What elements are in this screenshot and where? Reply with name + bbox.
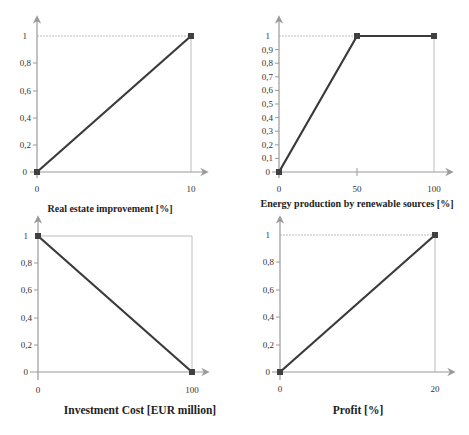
x-tick-label: 100 xyxy=(185,385,199,395)
x-axis-label: Investment Cost [EUR million] xyxy=(64,404,216,416)
y-tick-label: 0,2 xyxy=(262,140,273,150)
x-axis-label: Real estate improvement [%] xyxy=(47,203,172,214)
y-tick-label: 1 xyxy=(266,31,271,41)
data-point xyxy=(35,233,41,239)
y-tick-label: 0,2 xyxy=(263,340,274,350)
y-tick-label: 0,2 xyxy=(20,140,31,150)
y-tick-label: 0,6 xyxy=(20,86,32,96)
chart-investment-cost: 0 0,2 0,4 0,6 0,8 1 0 100 Investment Cos… xyxy=(21,217,216,416)
y-tick-label: 0,8 xyxy=(21,258,33,268)
data-point xyxy=(432,232,438,238)
y-tick-label: 0,4 xyxy=(262,113,274,123)
data-point xyxy=(431,33,437,39)
y-tick-label: 0,8 xyxy=(263,257,275,267)
x-tick-label: 50 xyxy=(353,184,363,194)
y-tick-label: 0 xyxy=(266,167,271,177)
y-tick-label: 0 xyxy=(266,367,271,377)
y-tick-label: 0,6 xyxy=(262,85,274,95)
y-ticks: 0 0,2 0,4 0,6 0,8 1 xyxy=(20,31,37,177)
x-tick-label: 10 xyxy=(187,184,197,194)
y-tick-label: 0,4 xyxy=(263,312,275,322)
chart-profit: 0 0,2 0,4 0,6 0,8 1 0 20 Profit [%] xyxy=(263,217,454,416)
y-tick-label: 0,9 xyxy=(262,45,274,55)
data-point xyxy=(188,33,194,39)
y-tick-label: 1 xyxy=(24,231,29,241)
x-tick-label: 0 xyxy=(36,385,41,395)
y-tick-label: 0 xyxy=(23,167,28,177)
x-axis-label: Energy production by renewable sources [… xyxy=(260,198,453,209)
x-tick-label: 0 xyxy=(278,384,283,394)
x-tick-label: 0 xyxy=(35,184,40,194)
utility-charts: 0 0,2 0,4 0,6 0,8 1 0 10 Real estate imp… xyxy=(0,0,469,435)
y-ticks: 0 0,1 0,2 0,3 0,4 0,5 0,6 0,7 0,8 0,9 1 xyxy=(262,31,279,177)
y-tick-label: 0,8 xyxy=(20,58,32,68)
chart-energy-production: 0 0,1 0,2 0,3 0,4 0,5 0,6 0,7 0,8 0,9 1 … xyxy=(260,17,453,209)
y-ticks: 0 0,2 0,4 0,6 0,8 1 xyxy=(263,230,280,377)
y-tick-label: 0,5 xyxy=(262,99,274,109)
y-ticks: 0 0,2 0,4 0,6 0,8 1 xyxy=(21,231,38,377)
data-point xyxy=(276,169,282,175)
y-tick-label: 0,3 xyxy=(262,126,274,136)
data-point xyxy=(277,369,283,375)
y-tick-label: 0,8 xyxy=(262,58,274,68)
utility-line xyxy=(37,36,191,172)
utility-line xyxy=(280,235,435,372)
x-axis-label: Profit [%] xyxy=(333,404,384,416)
utility-line xyxy=(38,236,192,372)
x-tick-label: 20 xyxy=(431,384,441,394)
x-tick-label: 100 xyxy=(427,184,441,194)
utility-line xyxy=(279,36,434,172)
y-tick-label: 0,4 xyxy=(21,313,33,323)
data-point xyxy=(354,33,360,39)
y-tick-label: 0,2 xyxy=(21,340,32,350)
y-tick-label: 0,1 xyxy=(262,153,273,163)
x-tick-label: 0 xyxy=(277,184,282,194)
y-tick-label: 0,6 xyxy=(21,285,33,295)
chart-real-estate-improvement: 0 0,2 0,4 0,6 0,8 1 0 10 Real estate imp… xyxy=(20,17,207,214)
y-tick-label: 1 xyxy=(266,230,271,240)
y-tick-label: 1 xyxy=(23,31,28,41)
data-point xyxy=(34,169,40,175)
y-tick-label: 0 xyxy=(24,367,29,377)
data-point xyxy=(189,369,195,375)
y-tick-label: 0,7 xyxy=(262,72,274,82)
y-tick-label: 0,6 xyxy=(263,285,275,295)
y-tick-label: 0,4 xyxy=(20,113,32,123)
